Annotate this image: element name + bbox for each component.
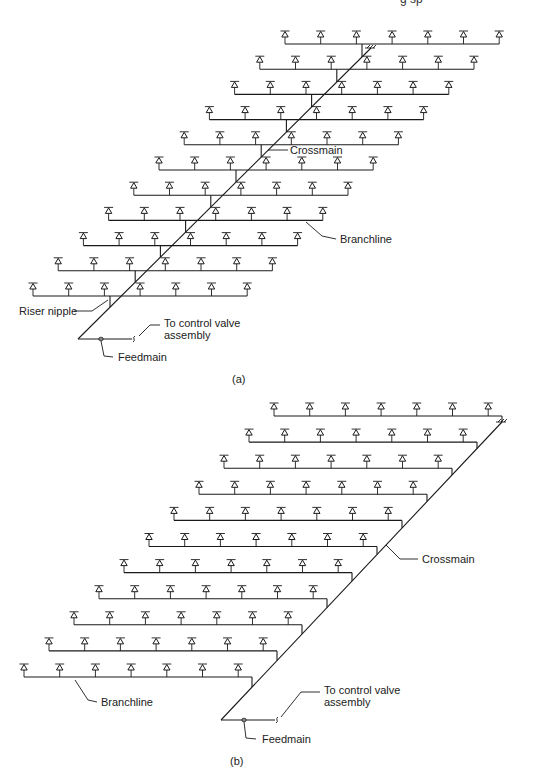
label-text: Riser nipple: [19, 305, 77, 317]
sprinkler-head-icon: [91, 664, 100, 677]
sprinkler-head-icon: [312, 507, 321, 520]
sprinkler-frame: [264, 560, 270, 566]
sprinkler-head-icon: [161, 258, 170, 271]
sprinkler-frame: [360, 534, 366, 540]
crossmain-label: Crossmain: [386, 545, 475, 565]
figure-caption: (a): [232, 373, 245, 385]
sprinkler-frame: [128, 665, 134, 671]
sprinkler-frame: [57, 665, 63, 671]
crossmain-pipe: [78, 48, 371, 339]
sprinkler-frame: [307, 404, 313, 410]
sprinkler-head-icon: [45, 638, 54, 651]
sprinkler-frame: [66, 284, 72, 290]
leader-line: [101, 341, 113, 357]
sprinkler-head-icon: [245, 429, 254, 442]
sprinkler-frame: [221, 456, 227, 462]
label-text: Feedmain: [262, 733, 311, 745]
sprinkler-head-icon: [459, 31, 468, 44]
pipe-break-icon: [276, 717, 278, 723]
sprinkler-frame: [349, 107, 355, 113]
sprinkler-frame: [101, 284, 107, 290]
sprinkler-frame: [303, 482, 309, 488]
sprinkler-head-icon: [448, 403, 457, 416]
sprinkler-frame: [410, 482, 416, 488]
sprinkler-frame: [271, 404, 277, 410]
sprinkler-frame: [257, 57, 263, 63]
sprinkler-head-icon: [95, 586, 104, 599]
branchline-row: [120, 560, 353, 581]
sprinkler-head-icon: [230, 481, 239, 494]
branchline-row: [220, 455, 453, 475]
branchline-row: [170, 507, 403, 528]
sprinkler-head-icon: [309, 586, 318, 599]
sprinkler-head-icon: [412, 403, 421, 416]
sprinkler-frame: [141, 208, 147, 214]
leader-line: [244, 722, 256, 739]
label-text-line2: assembly: [164, 329, 211, 341]
sprinkler-head-icon: [105, 612, 114, 625]
sprinkler-frame: [142, 612, 148, 618]
figure-caption: (b): [230, 755, 243, 767]
sprinkler-frame: [292, 57, 298, 63]
sprinkler-head-icon: [223, 638, 232, 651]
sprinkler-frame: [132, 586, 138, 592]
sprinkler-head-icon: [226, 157, 235, 170]
sprinkler-frame: [199, 665, 205, 671]
sprinkler-frame: [374, 482, 380, 488]
sprinkler-frame: [424, 430, 430, 436]
sprinkler-frame: [235, 665, 241, 671]
sprinkler-frame: [116, 233, 122, 239]
sprinkler-frame: [460, 430, 466, 436]
sprinkler-head-icon: [100, 283, 109, 296]
sprinkler-head-icon: [272, 182, 281, 195]
sprinkler-frame: [360, 132, 366, 138]
sprinkler-head-icon: [327, 455, 336, 468]
sprinkler-head-icon: [180, 534, 189, 547]
sprinkler-head-icon: [280, 429, 289, 442]
sprinkler-frame: [410, 82, 416, 88]
label-text: Crossmain: [290, 144, 343, 156]
feedmain-label: Feedmain: [244, 722, 311, 745]
sprinkler-head-icon: [155, 560, 164, 573]
sprinkler-frame: [96, 586, 102, 592]
sprinkler-head-icon: [323, 132, 332, 145]
sprinkler-head-icon: [120, 560, 129, 573]
sprinkler-head-icon: [207, 283, 216, 296]
sprinkler-head-icon: [297, 157, 306, 170]
sprinkler-head-icon: [70, 612, 79, 625]
sprinkler-frame: [227, 158, 233, 164]
sprinkler-head-icon: [201, 182, 210, 195]
sprinkler-head-icon: [287, 534, 296, 547]
sprinkler-head-icon: [334, 560, 343, 573]
sprinkler-frame: [353, 32, 359, 38]
sprinkler-frame: [238, 183, 244, 189]
label-text: To control valve: [164, 317, 240, 329]
sprinkler-head-icon: [352, 31, 361, 44]
sprinkler-frame: [335, 560, 341, 566]
sprinkler-head-icon: [383, 107, 392, 120]
sprinkler-frame: [285, 612, 291, 618]
sprinkler-head-icon: [273, 586, 282, 599]
sprinkler-head-icon: [316, 429, 325, 442]
label-text: To control valve: [324, 684, 400, 696]
sprinkler-head-icon: [266, 81, 275, 94]
sprinkler-head-icon: [434, 455, 443, 468]
sprinkler-frame: [91, 258, 97, 264]
sprinkler-frame: [121, 560, 127, 566]
sprinkler-frame: [198, 258, 204, 264]
leader-line: [281, 692, 320, 717]
branchline-label: Branchline: [306, 222, 392, 245]
sprinkler-head-icon: [130, 586, 139, 599]
sprinkler-head-icon: [155, 157, 164, 170]
riser-nipple-label: Riser nipple: [19, 300, 108, 317]
sprinkler-head-icon: [29, 283, 38, 296]
sprinkler-head-icon: [302, 81, 311, 94]
branchline-row: [104, 207, 327, 232]
sprinkler-frame: [449, 404, 455, 410]
sprinkler-head-icon: [298, 560, 307, 573]
sprinkler-head-icon: [232, 258, 241, 271]
sprinkler-head-icon: [359, 534, 368, 547]
sprinkler-head-icon: [205, 107, 214, 120]
leader-line: [386, 545, 418, 559]
center-fed-diagram-a: CrossmainBranchlineRiser nippleTo contro…: [19, 31, 504, 385]
